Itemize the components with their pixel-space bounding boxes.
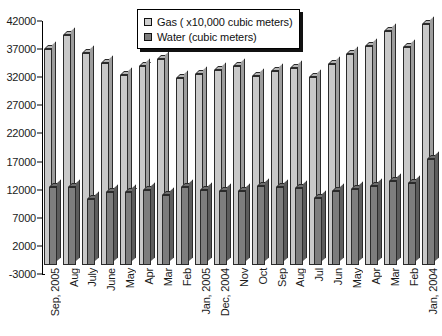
bar-front-face	[351, 189, 359, 265]
bar-water	[332, 191, 340, 265]
bar-water	[68, 187, 76, 265]
bar-front-face	[276, 187, 284, 265]
bar-water	[106, 192, 114, 265]
bar-side-face	[435, 151, 439, 261]
bar-front-face	[125, 192, 133, 265]
bar-front-face	[332, 191, 340, 265]
legend-item-water: Water (cubic meters)	[144, 29, 292, 44]
bar-side-face	[227, 183, 231, 261]
y-axis-tick-label: 2000	[12, 240, 36, 252]
bar-front-face	[257, 186, 265, 265]
bar-water	[276, 187, 284, 265]
x-axis-tick-label: Jan, 2005	[200, 268, 212, 315]
bar-side-face	[378, 179, 382, 261]
bar-water	[314, 198, 322, 265]
bar-front-face	[219, 191, 227, 265]
bar-water	[370, 186, 378, 265]
bar-side-face	[397, 174, 401, 261]
plot-area	[43, 15, 440, 265]
bar-water	[125, 192, 133, 265]
bar-water	[389, 181, 397, 265]
bar-water	[238, 191, 246, 265]
bar-water	[408, 183, 416, 265]
bar-group	[232, 15, 251, 265]
bar-front-face	[370, 186, 378, 265]
x-axis-tick-label: Mar	[162, 268, 174, 286]
bar-group	[383, 15, 402, 265]
x-axis-tick-label: Feb	[408, 268, 420, 286]
bar-side-face	[265, 178, 269, 261]
bar-side-face	[246, 184, 250, 261]
bar-side-face	[151, 183, 155, 261]
bar-front-face	[181, 187, 189, 265]
bar-water	[351, 189, 359, 265]
bar-group	[251, 15, 270, 265]
bar-group	[194, 15, 213, 265]
bar-water	[219, 191, 227, 265]
bar-water	[87, 199, 95, 265]
x-axis-tick-label: Nov	[238, 268, 250, 287]
bar-group	[138, 15, 157, 265]
y-axis-tick-label: 27000	[6, 99, 36, 111]
bar-front-face	[200, 190, 208, 265]
chart-legend: Gas ( x10,000 cubic meters) Water (cubic…	[137, 9, 300, 49]
x-axis-tick-label: Oct	[257, 268, 269, 285]
bar-side-face	[114, 184, 118, 261]
y-axis-tick-label: 42000	[6, 15, 36, 27]
bar-side-face	[322, 191, 326, 261]
x-axis-tick-label: May	[124, 268, 136, 288]
bar-group	[345, 15, 364, 265]
bar-side-face	[340, 184, 344, 261]
bar-water	[162, 195, 170, 265]
legend-swatch-gas-icon	[144, 18, 152, 26]
x-axis-tick-label: Sep	[276, 268, 288, 287]
bar-front-face	[295, 188, 303, 265]
bar-group	[81, 15, 100, 265]
bar-side-face	[359, 182, 363, 261]
x-axis-tick-label: Dec, 2004	[219, 268, 231, 316]
y-axis: 4200037000320002700022000170001200070002…	[0, 0, 42, 290]
bar-water	[257, 186, 265, 265]
bar-water	[143, 190, 151, 265]
bar-group	[213, 15, 232, 265]
x-axis-tick-label: Aug	[294, 268, 306, 287]
bar-group	[308, 15, 327, 265]
y-axis-tick-label: 22000	[6, 127, 36, 139]
y-axis-tick-label: 12000	[6, 184, 36, 196]
bar-side-face	[303, 180, 307, 261]
bar-group	[43, 15, 62, 265]
legend-label-water: Water (cubic meters)	[157, 31, 257, 43]
x-axis-tick-label: Mar	[389, 268, 401, 286]
bar-group	[100, 15, 119, 265]
x-axis-tick-label: Apr	[143, 268, 155, 285]
bar-front-face	[314, 198, 322, 265]
bar-side-face	[57, 179, 61, 261]
bar-front-face	[106, 192, 114, 265]
x-axis-tick-label: June	[105, 268, 117, 291]
bar-front-face	[87, 199, 95, 265]
bar-front-face	[408, 183, 416, 265]
bar-water	[181, 187, 189, 265]
x-axis-tick-label: Jul	[313, 268, 325, 281]
x-axis-tick-label: May	[351, 268, 363, 288]
bar-group	[175, 15, 194, 265]
bar-side-face	[416, 175, 420, 261]
y-axis-tick-label: 17000	[6, 156, 36, 168]
x-axis-tick-label: Sep, 2005	[49, 268, 61, 316]
bar-front-face	[49, 187, 57, 265]
x-axis-tick-label: Feb	[181, 268, 193, 286]
bar-front-face	[427, 159, 435, 265]
legend-swatch-water-icon	[144, 33, 152, 41]
y-axis-tick-label: 37000	[6, 43, 36, 55]
bar-group	[327, 15, 346, 265]
bar-side-face	[132, 185, 136, 261]
x-axis-tick-label: Jun	[332, 268, 344, 285]
bar-group	[364, 15, 383, 265]
legend-label-gas: Gas ( x10,000 cubic meters)	[157, 16, 292, 28]
bar-group	[119, 15, 138, 265]
bar-water	[200, 190, 208, 265]
y-axis-tick-label: 32000	[6, 71, 36, 83]
bar-front-face	[238, 191, 246, 265]
bar-water	[427, 159, 435, 265]
bar-front-face	[162, 195, 170, 265]
